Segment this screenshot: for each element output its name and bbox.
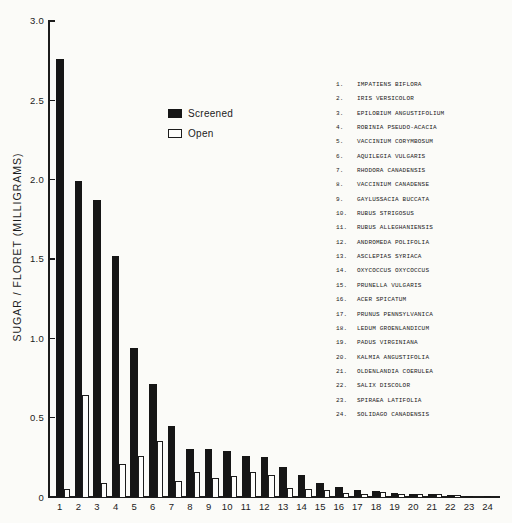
species-list-item: 21.OLDENLANDIA COERULEA [336, 368, 444, 382]
species-list-item: 1.IMPATIENS BIFLORA [336, 81, 444, 95]
bar-screened-4 [112, 256, 120, 497]
species-number: 22. [336, 382, 357, 389]
bar-screened-20 [409, 494, 417, 497]
species-number: 11. [336, 224, 357, 231]
y-tick-mark [50, 338, 55, 340]
y-tick-mark [50, 20, 55, 22]
species-name: RUBUS STRIGOSUS [357, 210, 414, 217]
bar-screened-9 [205, 449, 213, 497]
bar-open-6 [157, 441, 164, 497]
bar-open-23 [473, 496, 480, 497]
species-list-item: 20.KALMIA ANGUSTIFOLIA [336, 354, 444, 368]
legend-open-label: Open [188, 128, 214, 139]
species-name: ACER SPICATUM [357, 296, 406, 303]
x-tick-label-4: 4 [107, 501, 125, 512]
species-name: ASCLEPIAS SYRIACA [357, 253, 422, 260]
y-tick-label: 1.0 [20, 333, 44, 344]
bar-open-20 [417, 494, 424, 497]
species-number: 1. [336, 81, 357, 88]
legend-item-open: Open [168, 128, 233, 139]
bar-open-21 [436, 494, 443, 497]
species-list: 1.IMPATIENS BIFLORA2.IRIS VERSICOLOR3.EP… [336, 81, 444, 425]
species-number: 16. [336, 296, 357, 303]
x-tick-label-1: 1 [51, 501, 69, 512]
x-tick-label-14: 14 [293, 501, 311, 512]
x-tick-label-11: 11 [237, 501, 255, 512]
bar-screened-11 [242, 456, 250, 497]
bar-open-15 [324, 490, 331, 497]
bar-screened-17 [354, 490, 362, 497]
bar-open-24 [491, 496, 498, 497]
bar-open-4 [119, 464, 126, 497]
bar-screened-12 [261, 457, 269, 497]
species-list-item: 22.SALIX DISCOLOR [336, 382, 444, 396]
y-tick-mark [50, 417, 55, 419]
species-list-item: 6.AQUILEGIA VULGARIS [336, 153, 444, 167]
bar-screened-24 [484, 496, 492, 497]
bar-screened-23 [465, 496, 473, 497]
x-tick-label-10: 10 [218, 501, 236, 512]
y-tick-mark [50, 179, 55, 181]
bar-open-17 [361, 494, 368, 497]
species-number: 17. [336, 311, 357, 318]
bar-open-8 [194, 472, 201, 497]
bar-screened-14 [298, 475, 306, 497]
bar-chart-figure: SUGAR / FLORET (MILLIGRAMS) 3.02.52.01.5… [0, 0, 512, 523]
bar-screened-2 [75, 181, 83, 497]
species-number: 13. [336, 253, 357, 260]
legend: Screened Open [168, 108, 233, 148]
species-list-item: 23.SPIRAEA LATIFOLIA [336, 397, 444, 411]
species-list-item: 14.OXYCOCCUS OXYCOCCUS [336, 267, 444, 281]
y-tick-mark [50, 258, 55, 260]
species-number: 18. [336, 325, 357, 332]
x-tick-label-21: 21 [423, 501, 441, 512]
x-tick-label-13: 13 [274, 501, 292, 512]
x-tick-label-2: 2 [69, 501, 87, 512]
species-name: OLDENLANDIA COERULEA [357, 368, 433, 375]
y-tick-label: 2.5 [20, 95, 44, 106]
species-number: 3. [336, 110, 357, 117]
bar-open-1 [64, 489, 71, 497]
y-tick-label: 2.0 [20, 174, 44, 185]
species-list-item: 12.ANDROMEDA POLIFOLIA [336, 239, 444, 253]
bar-screened-13 [279, 467, 287, 497]
species-name: PRUNELLA VULGARIS [357, 282, 422, 289]
species-number: 15. [336, 282, 357, 289]
species-number: 12. [336, 239, 357, 246]
x-tick-label-6: 6 [144, 501, 162, 512]
species-name: RHODORA CANADENSIS [357, 167, 425, 174]
y-tick-label: 0 [20, 492, 44, 503]
x-tick-label-18: 18 [367, 501, 385, 512]
bar-screened-19 [391, 493, 399, 497]
bar-screened-8 [186, 449, 194, 497]
bar-open-3 [101, 483, 108, 497]
species-list-item: 24.SOLIDAGO CANADENSIS [336, 411, 444, 425]
species-name: LEDUM GROENLANDICUM [357, 325, 429, 332]
species-list-item: 19.PADUS VIRGINIANA [336, 339, 444, 353]
y-tick-label: 0.5 [20, 412, 44, 423]
species-number: 23. [336, 397, 357, 404]
bar-open-16 [343, 493, 350, 497]
bar-open-2 [82, 395, 89, 497]
x-tick-label-7: 7 [162, 501, 180, 512]
species-list-item: 9.GAYLUSSACIA BUCCATA [336, 196, 444, 210]
species-number: 9. [336, 196, 357, 203]
bar-screened-3 [93, 200, 101, 497]
species-list-item: 17.PRUNUS PENNSYLVANICA [336, 311, 444, 325]
species-number: 10. [336, 210, 357, 217]
y-tick-mark [50, 100, 55, 102]
species-list-item: 11.RUBUS ALLEGHANIENSIS [336, 224, 444, 238]
species-name: PRUNUS PENNSYLVANICA [357, 311, 433, 318]
x-tick-label-20: 20 [404, 501, 422, 512]
species-list-item: 3.EPILOBIUM ANGUSTIFOLIUM [336, 110, 444, 124]
x-tick-label-12: 12 [255, 501, 273, 512]
species-list-item: 2.IRIS VERSICOLOR [336, 95, 444, 109]
legend-screened-label: Screened [188, 108, 233, 119]
bar-screened-7 [168, 426, 176, 497]
species-number: 7. [336, 167, 357, 174]
species-number: 24. [336, 411, 357, 418]
species-name: EPILOBIUM ANGUSTIFOLIUM [357, 110, 444, 117]
species-number: 5. [336, 138, 357, 145]
species-number: 2. [336, 95, 357, 102]
x-tick-label-22: 22 [441, 501, 459, 512]
